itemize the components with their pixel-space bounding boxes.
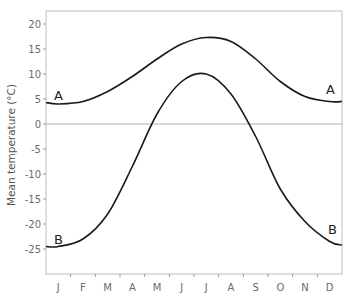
y-axis: 20151050-5-10-15-20-25 — [25, 19, 46, 255]
x-tick-label: D — [326, 282, 334, 293]
y-tick-label: 10 — [28, 69, 41, 80]
x-tick-label: J — [56, 282, 60, 293]
y-tick-label: 0 — [35, 119, 41, 130]
temperature-chart: 20151050-5-10-15-20-25 JFMAMJJASOND A A … — [0, 0, 349, 302]
series-a-line — [46, 37, 342, 104]
x-tick-label: A — [228, 282, 235, 293]
y-tick-label: -20 — [25, 219, 41, 230]
y-tick-label: -25 — [25, 244, 41, 255]
y-tick-label: -5 — [31, 144, 41, 155]
x-tick-label: M — [103, 282, 112, 293]
y-tick-label: 15 — [28, 44, 41, 55]
plot-frame — [46, 11, 342, 274]
x-tick-label: N — [301, 282, 308, 293]
series-b-label-right: B — [328, 222, 337, 237]
series-a-label-left: A — [54, 88, 63, 103]
y-tick-label: 5 — [35, 94, 41, 105]
y-tick-label: -15 — [25, 194, 41, 205]
y-tick-label: -10 — [25, 169, 41, 180]
x-tick-label: J — [204, 282, 208, 293]
x-tick-label: M — [153, 282, 162, 293]
x-tick-label: A — [129, 282, 136, 293]
x-tick-label: F — [80, 282, 86, 293]
x-axis: JFMAMJJASOND — [56, 274, 334, 293]
y-axis-title: Mean temperature (°C) — [5, 84, 17, 206]
x-tick-label: S — [252, 282, 258, 293]
x-tick-label: O — [276, 282, 284, 293]
series-a-label-right: A — [326, 82, 335, 97]
x-tick-label: J — [179, 282, 183, 293]
series-b-label-left: B — [54, 232, 63, 247]
y-tick-label: 20 — [28, 19, 41, 30]
